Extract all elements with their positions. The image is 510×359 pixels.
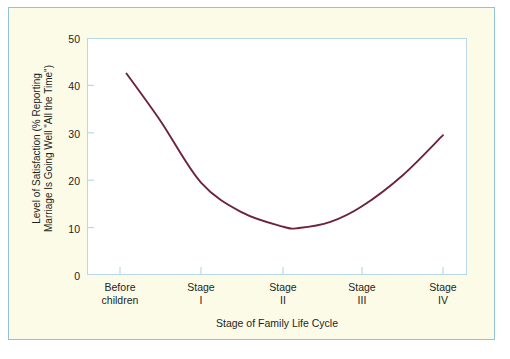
chart-figure: Level of Satisfaction (% Reporting Marri… xyxy=(0,0,510,359)
y-tick-marks xyxy=(87,85,94,227)
x-tick-label-stage-ii: Stage II xyxy=(269,281,296,306)
plot-svg xyxy=(87,38,467,275)
y-tick-label: 20 xyxy=(52,176,80,187)
y-tick-label: 0 xyxy=(52,271,80,282)
satisfaction-curve xyxy=(126,74,443,229)
y-tick-label: 40 xyxy=(52,81,80,92)
y-tick-label: 50 xyxy=(52,34,80,45)
y-tick-label: 30 xyxy=(52,129,80,140)
x-tick-marks xyxy=(120,267,443,275)
x-tick-label-stage-iii: Stage III xyxy=(348,281,375,306)
x-axis-title: Stage of Family Life Cycle xyxy=(87,317,467,329)
x-tick-label-stage-iv: Stage IV xyxy=(429,281,456,306)
x-tick-label-stage-i: Stage I xyxy=(187,281,214,306)
y-tick-label: 10 xyxy=(52,224,80,235)
x-tick-label-before-children: Before children xyxy=(102,281,139,306)
x-axis-ticks: Before children Stage I Stage II Stage I… xyxy=(0,281,510,315)
